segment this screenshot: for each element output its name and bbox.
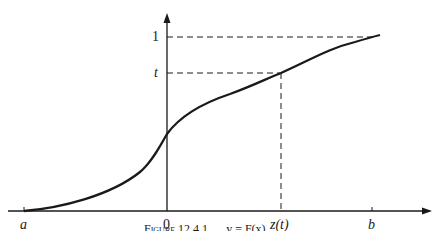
- y-label-one: 1: [152, 30, 159, 44]
- x-label-a: a: [20, 218, 27, 231]
- cdf-diagram: [0, 0, 438, 231]
- figure-equation: y = F(x): [226, 222, 265, 231]
- x-axis-arrowhead-icon: [422, 208, 432, 215]
- y-label-t: t: [154, 66, 158, 80]
- figure-label: Figure 12.4.1: [144, 222, 208, 231]
- x-label-zt: z(t): [270, 218, 289, 231]
- figure-caption: Figure 12.4.1 y = F(x): [144, 223, 266, 231]
- x-label-b: b: [368, 218, 375, 231]
- y-axis-arrowhead-icon: [164, 13, 171, 23]
- cdf-curve: [24, 35, 380, 211]
